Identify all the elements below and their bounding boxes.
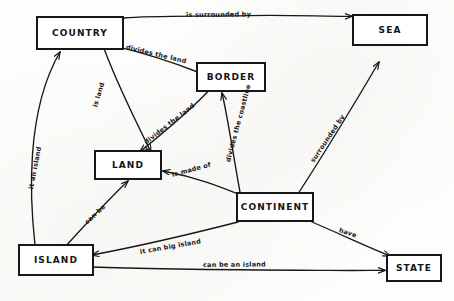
node-state[interactable]: STATE (386, 254, 442, 282)
edge-label-island-state: can be an island (203, 260, 266, 269)
diagram-canvas: COUNTRY SEA BORDER LAND CONTINENT ISLAND… (0, 0, 454, 301)
edge-label-continent-border: divides the coastline (224, 83, 253, 163)
node-continent[interactable]: CONTINENT (236, 192, 314, 222)
edge-label-continent-land: is made of (171, 161, 212, 179)
edge-label-border-land: divides the land (143, 102, 197, 147)
edge-label-island-country: it an island (27, 146, 43, 190)
edge-label-country-sea: is surrounded by (186, 10, 251, 19)
edge-label-state-continent: have (338, 226, 358, 239)
node-land[interactable]: LAND (94, 150, 162, 180)
edge-label-border-country: divides the land (125, 43, 187, 65)
node-country[interactable]: COUNTRY (36, 16, 124, 50)
edge-label-country-land: is land (91, 81, 106, 108)
node-island[interactable]: ISLAND (18, 244, 94, 276)
edge-label-continent-sea: surrounded by (309, 113, 347, 164)
node-sea[interactable]: SEA (352, 14, 428, 46)
edge-country-land (104, 49, 151, 153)
edge-label-island-land: can be (83, 203, 107, 226)
edge-state-continent (312, 222, 390, 256)
edge-label-continent-island: it can big island (139, 237, 201, 256)
node-border[interactable]: BORDER (196, 62, 266, 92)
